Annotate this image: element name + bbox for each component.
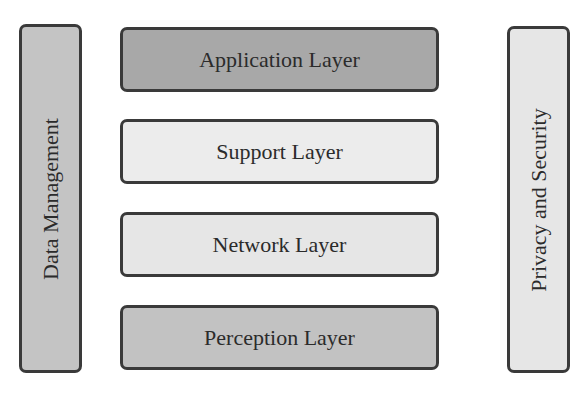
perception-layer-label: Perception Layer: [204, 325, 355, 351]
support-layer-label: Support Layer: [216, 139, 342, 165]
perception-layer-box: Perception Layer: [120, 305, 439, 370]
network-layer-label: Network Layer: [213, 232, 347, 258]
support-layer-box: Support Layer: [120, 119, 439, 184]
data-management-bar: Data Management: [19, 24, 82, 373]
application-layer-box: Application Layer: [120, 27, 439, 92]
privacy-security-label: Privacy and Security: [526, 108, 552, 291]
privacy-security-bar: Privacy and Security: [507, 26, 570, 373]
network-layer-box: Network Layer: [120, 212, 439, 277]
data-management-label: Data Management: [38, 118, 64, 280]
application-layer-label: Application Layer: [199, 47, 360, 73]
